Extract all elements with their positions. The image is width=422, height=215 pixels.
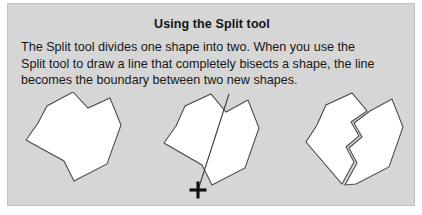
instruction-line-1: The Split tool divides one shape into tw… (21, 39, 407, 56)
shape-with-cut-line (164, 94, 259, 185)
instruction-line-2: Split tool to draw a line that completel… (21, 56, 407, 73)
illustration-area (8, 92, 415, 206)
whole-shape (26, 92, 121, 181)
instruction-panel: Using the Split tool The Split tool divi… (7, 3, 415, 206)
step-original-shape (26, 92, 121, 181)
page-title: Using the Split tool (8, 17, 415, 31)
instruction-line-3: becomes the boundary between two new sha… (21, 72, 407, 89)
instruction-paragraph: The Split tool divides one shape into tw… (21, 39, 407, 89)
step-shape-being-split (164, 94, 259, 199)
step-resulting-two-shapes (306, 93, 403, 185)
illustration-svg (8, 92, 415, 206)
crosshair-cursor (190, 182, 207, 199)
split-tool-figure: Using the Split tool The Split tool divi… (0, 0, 422, 215)
